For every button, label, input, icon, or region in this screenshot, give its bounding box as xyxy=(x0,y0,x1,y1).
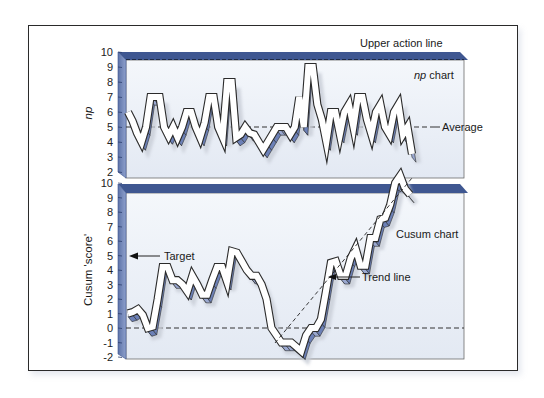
average-label: Average xyxy=(442,121,483,133)
y-tick-mark xyxy=(118,142,122,143)
np-top-bar xyxy=(118,52,468,60)
y-tick-label: 6 xyxy=(107,235,113,247)
y-tick-mark xyxy=(118,256,122,257)
y-tick-label: 6 xyxy=(107,106,113,118)
y-tick-mark xyxy=(118,82,122,83)
y-tick-mark xyxy=(118,127,122,128)
np-chart-panel: 2345678910 xyxy=(101,46,468,178)
y-tick-label: 7 xyxy=(107,91,113,103)
y-tick-label: 9 xyxy=(107,192,113,204)
y-tick-mark xyxy=(118,97,122,98)
np-axis-title: np xyxy=(82,106,94,119)
y-tick-label: 0 xyxy=(107,322,113,334)
y-tick-label: 8 xyxy=(107,206,113,218)
y-tick-label: 8 xyxy=(107,76,113,88)
np-chart-label: np chart xyxy=(414,69,454,81)
y-tick-label: 3 xyxy=(107,279,113,291)
y-tick-label: 10 xyxy=(101,46,113,58)
y-tick-mark xyxy=(118,112,122,113)
np-chart-label-suffix: chart xyxy=(426,69,454,81)
y-tick-mark xyxy=(118,299,122,300)
y-tick-label: 10 xyxy=(101,177,113,189)
cusum-left-wall xyxy=(118,184,126,359)
y-tick-mark xyxy=(118,183,122,184)
y-tick-label: 4 xyxy=(107,136,113,148)
trend-line-label: Trend line xyxy=(362,271,411,283)
y-tick-label: 9 xyxy=(107,61,113,73)
y-tick-label: 7 xyxy=(107,221,113,233)
y-tick-mark xyxy=(118,343,122,344)
y-tick-mark xyxy=(118,67,122,68)
y-tick-mark xyxy=(118,285,122,286)
y-tick-label: 1 xyxy=(107,308,113,320)
y-tick-label: 5 xyxy=(107,250,113,262)
y-tick-label: 4 xyxy=(107,264,113,276)
np-left-wall xyxy=(118,52,126,178)
y-tick-mark xyxy=(118,227,122,228)
y-tick-label: -1 xyxy=(103,337,113,349)
upper-action-line-label: Upper action line xyxy=(360,37,443,49)
y-tick-mark xyxy=(118,212,122,213)
y-tick-mark xyxy=(118,270,122,271)
y-tick-mark xyxy=(118,241,122,242)
y-tick-mark xyxy=(118,357,122,358)
y-tick-label: 3 xyxy=(107,151,113,163)
cusum-chart-label: Cusum chart xyxy=(396,228,458,240)
y-tick-mark xyxy=(118,314,122,315)
np-chart-label-italic: np xyxy=(414,69,426,81)
y-tick-mark xyxy=(118,328,122,329)
cusum-top-bar xyxy=(118,184,468,193)
y-tick-mark xyxy=(118,52,122,53)
target-label: Target xyxy=(164,250,195,262)
y-tick-label: 2 xyxy=(107,293,113,305)
y-tick-mark xyxy=(118,172,122,173)
y-tick-mark xyxy=(118,157,122,158)
y-tick-label: 5 xyxy=(107,121,113,133)
y-tick-mark xyxy=(118,198,122,199)
cusum-axis-title: Cusum 'score' xyxy=(82,234,94,306)
control-charts-figure: 2345678910 -2-1012345678910 Upper action… xyxy=(0,0,544,398)
y-tick-label: -2 xyxy=(103,351,113,363)
cusum-chart-panel: -2-1012345678910 xyxy=(101,176,468,363)
